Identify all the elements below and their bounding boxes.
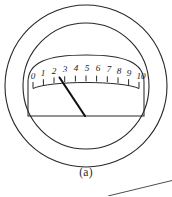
- scale-label-10: 10: [136, 71, 146, 81]
- scale-label-8: 8: [117, 66, 122, 76]
- meter-figure: 0 1 2 3 4 5 6 7 8 9 10 (a): [0, 0, 172, 196]
- scale-label-1: 1: [41, 68, 46, 78]
- meter-needle-pointer: [60, 78, 86, 117]
- scale-label-4: 4: [74, 63, 79, 73]
- scale-label-6: 6: [96, 63, 101, 73]
- scale-label-3: 3: [62, 64, 68, 74]
- scale-label-2: 2: [52, 66, 57, 76]
- figure-caption: (a): [0, 166, 172, 178]
- scale-label-9: 9: [127, 68, 132, 78]
- scale-label-5: 5: [85, 63, 90, 73]
- adjacent-figure-edge-line: [108, 181, 172, 197]
- scale-number-labels: 0 1 2 3 4 5 6 7 8 9 10: [31, 63, 146, 81]
- meter-outer-bezel-circle: [5, 5, 167, 167]
- scale-label-7: 7: [107, 64, 112, 74]
- scale-arc-baseline: [33, 83, 139, 89]
- scale-label-0: 0: [31, 71, 36, 81]
